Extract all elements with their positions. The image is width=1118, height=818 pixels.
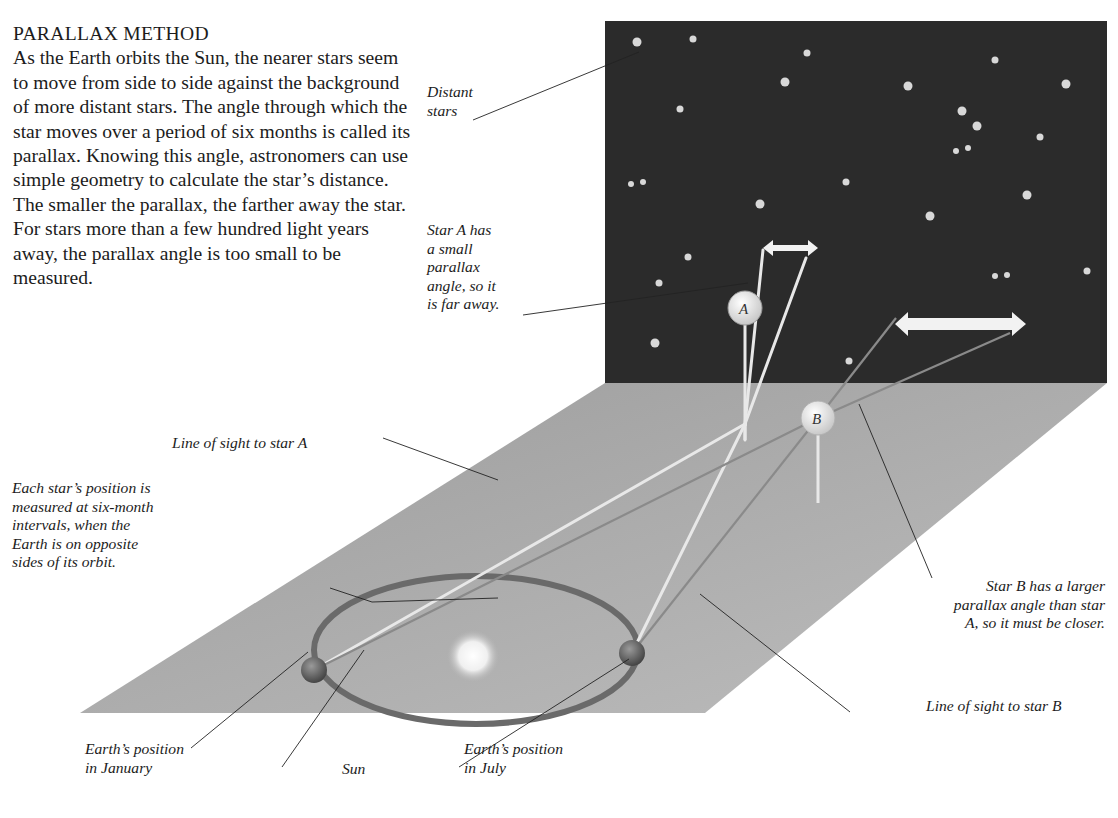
label-line: stars: [427, 102, 473, 121]
label-line: is far away.: [427, 295, 499, 314]
star-b-letter: B: [812, 411, 821, 427]
label-line: parallax: [427, 258, 499, 277]
label-line: parallax angle than star: [954, 596, 1105, 615]
earth-january-icon: [301, 657, 327, 683]
label-line: sides of its orbit.: [12, 553, 153, 572]
label-earth-july: Earth’s position in July: [464, 740, 563, 777]
label-line: in July: [464, 759, 563, 778]
label-line: Earth is on opposite: [12, 535, 153, 554]
label-star-b-note: Star B has a larger parallax angle than …: [954, 577, 1105, 633]
label-line: intervals, when the: [12, 516, 153, 535]
label-line: A, so it must be closer.: [954, 614, 1105, 633]
sun-icon: [447, 630, 499, 682]
label-line: Star B has a larger: [954, 577, 1105, 596]
label-star-a-note: Star A has a small parallax angle, so it…: [427, 221, 499, 314]
star-a: A: [728, 291, 762, 325]
star-b: B: [801, 401, 835, 435]
label-line: Distant: [427, 83, 473, 102]
earth-july-icon: [619, 640, 645, 666]
night-sky-panel: [605, 21, 1107, 383]
label-line: angle, so it: [427, 277, 499, 296]
label-line: a small: [427, 240, 499, 259]
label-line: in January: [85, 759, 184, 778]
label-line: Earth’s position: [85, 740, 184, 759]
orbital-plane: [80, 383, 1107, 713]
label-line-of-sight-b: Line of sight to star B: [926, 697, 1062, 716]
star-a-letter: A: [738, 301, 749, 317]
label-line: Each star’s position is: [12, 479, 153, 498]
label-earth-january: Earth’s position in January: [85, 740, 184, 777]
parallax-diagram: A B: [0, 0, 1118, 818]
label-line: Earth’s position: [464, 740, 563, 759]
label-measurement-note: Each star’s position is measured at six-…: [12, 479, 153, 572]
label-line-of-sight-a: Line of sight to star A: [172, 434, 307, 453]
label-line: Star A has: [427, 221, 499, 240]
label-distant-stars: Distant stars: [427, 83, 473, 120]
label-line: measured at six-month: [12, 498, 153, 517]
label-sun: Sun: [342, 760, 365, 779]
